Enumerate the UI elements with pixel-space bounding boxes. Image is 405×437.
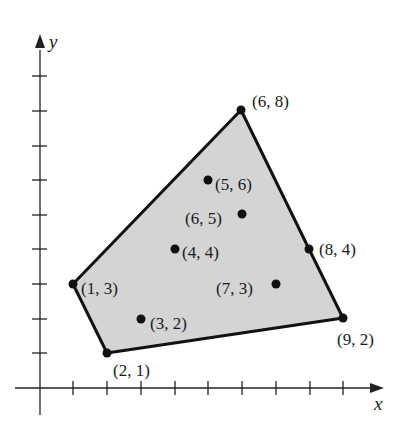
x-axis: x xyxy=(15,381,384,414)
point-6-8 xyxy=(237,106,246,115)
label-2-1: (2, 1) xyxy=(113,361,150,380)
y-axis: y xyxy=(32,31,58,415)
label-7-3: (7, 3) xyxy=(216,279,253,298)
feasible-region-diagram: x y (6, 8) (5, 6) (6, xyxy=(0,0,405,437)
y-axis-label: y xyxy=(47,31,58,52)
point-1-3 xyxy=(69,280,78,289)
label-4-4: (4, 4) xyxy=(182,243,219,262)
point-2-1 xyxy=(103,349,112,358)
point-3-2 xyxy=(137,315,146,324)
point-6-5 xyxy=(238,210,247,219)
point-4-4 xyxy=(171,245,180,254)
x-axis-arrow-icon xyxy=(370,383,384,393)
point-8-4 xyxy=(305,245,314,254)
point-7-3 xyxy=(272,280,281,289)
label-1-3: (1, 3) xyxy=(81,279,118,298)
label-5-6: (5, 6) xyxy=(215,175,252,194)
label-8-4: (8, 4) xyxy=(319,240,356,259)
point-5-6 xyxy=(204,176,213,185)
label-6-5: (6, 5) xyxy=(185,209,222,228)
label-3-2: (3, 2) xyxy=(150,314,187,333)
label-9-2: (9, 2) xyxy=(337,330,374,349)
label-6-8: (6, 8) xyxy=(252,92,289,111)
shaded-region xyxy=(73,110,343,353)
y-axis-arrow-icon xyxy=(35,34,45,48)
x-axis-label: x xyxy=(373,393,383,414)
point-9-2 xyxy=(339,314,348,323)
